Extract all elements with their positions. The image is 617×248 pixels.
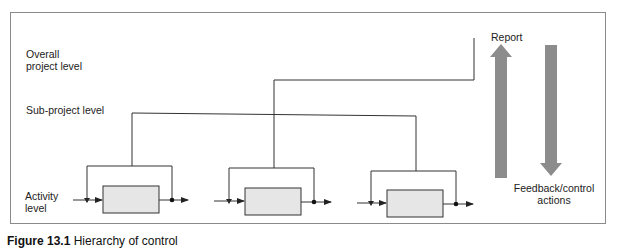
activity-box-3 <box>387 190 443 217</box>
output-node-2 <box>312 200 317 205</box>
overall-connector <box>274 38 474 168</box>
activity-box-1 <box>103 186 159 213</box>
activity-1 <box>73 166 188 213</box>
activity-2 <box>214 168 331 215</box>
caption-label: Figure 13.1 <box>7 234 70 248</box>
caption-text: Hierarchy of control <box>74 234 178 248</box>
output-node-3 <box>454 202 459 207</box>
activity-box-2 <box>245 188 301 215</box>
figure-caption: Figure 13.1 Hierarchy of control <box>7 234 178 248</box>
feedback-down-arrow-icon <box>540 45 562 176</box>
output-node-1 <box>170 198 175 203</box>
report-up-arrow-icon <box>490 44 512 178</box>
activity-3 <box>357 171 473 217</box>
